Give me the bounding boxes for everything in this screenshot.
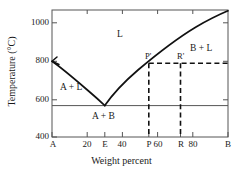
x-axis-title: Weight percent (0, 156, 243, 166)
region-label-a-plus-b: A + B (92, 112, 115, 122)
point-label-r-prime: R' (177, 52, 184, 61)
region-label-b-plus-l: B + L (190, 44, 212, 54)
y-axis-ticks (52, 23, 57, 137)
y-axis-title-wrap: Temperature (°C) (0, 0, 16, 173)
y-axis-ticks-right (223, 23, 228, 100)
region-label-a-plus-l: A + L (60, 83, 82, 93)
x-tick-label-b: B (222, 140, 234, 149)
y-tick-label-600: 600 (25, 95, 49, 104)
x-tick-label-60: 60 (152, 140, 164, 149)
x-tick-label-r: R (175, 140, 187, 149)
x-tick-label-80: 80 (187, 140, 199, 149)
point-label-p-prime: P' (145, 52, 151, 61)
region-label-liquid: L (117, 30, 123, 40)
y-tick-label-400: 400 (25, 132, 49, 141)
plot-frame (52, 10, 228, 137)
x-tick-label-20: 20 (81, 140, 93, 149)
x-tick-label-a: A (47, 140, 59, 149)
phase-diagram-figure: Temperature (°C) 1000 800 600 400 A 20 E… (0, 0, 243, 173)
y-axis-title: Temperature (°C) (6, 17, 17, 127)
x-axis-ticks (52, 132, 228, 137)
x-axis-ticks-top (87, 10, 193, 14)
liquidus-curve-b (105, 11, 228, 106)
x-tick-label-40: 40 (116, 140, 128, 149)
y-tick-label-1000: 1000 (25, 18, 49, 27)
y-tick-label-800: 800 (25, 56, 49, 65)
x-tick-label-e: E (99, 140, 111, 149)
